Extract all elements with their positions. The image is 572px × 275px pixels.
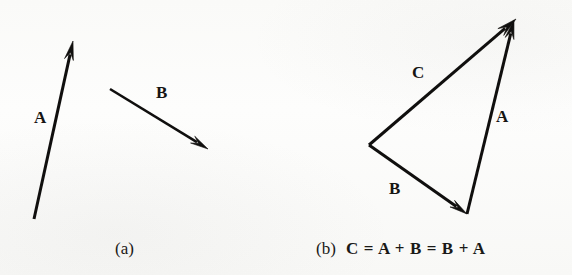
vector-diagram-canvas: [0, 0, 572, 275]
panel-b-vector-C: [369, 19, 516, 145]
panel-a-label-B: B: [156, 84, 168, 101]
panel-a-vector-A: [34, 41, 73, 219]
panel-a-vector-B-arrowhead: [191, 136, 208, 149]
panel-a-caption: (a): [115, 240, 134, 257]
panel-b-caption-equation: C = A + B = B + A: [346, 239, 486, 258]
panel-b-label-B: B: [389, 180, 401, 197]
panel-a-caption-tag: (a): [115, 239, 134, 258]
figure-root: A B B A C (a) (b) C = A + B = B + A: [0, 0, 572, 275]
panel-b-label-A: A: [496, 108, 508, 125]
panel-b-caption-tag: (b): [316, 239, 336, 258]
panel-b-caption: (b) C = A + B = B + A: [316, 240, 486, 257]
panel-a-vector-A-shaft: [34, 54, 70, 219]
panel-b-vector-C-shaft: [369, 28, 505, 145]
panel-a-label-A: A: [34, 109, 46, 126]
panel-b-vector-B: [369, 145, 467, 214]
panel-a-vector-B-shaft: [110, 89, 197, 142]
panel-b-vector-B-shaft: [369, 145, 456, 207]
panel-b-label-C: C: [412, 64, 424, 81]
